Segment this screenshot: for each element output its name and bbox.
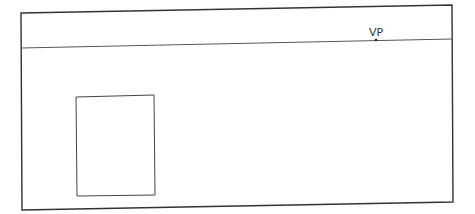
perspective-diagram: VP: [0, 0, 475, 214]
horizon-line: [21, 39, 452, 48]
rectangle-shape: [76, 95, 155, 196]
picture-frame: [21, 5, 453, 210]
vanishing-point-marker: [375, 39, 378, 42]
vanishing-point-label: VP: [369, 26, 384, 39]
